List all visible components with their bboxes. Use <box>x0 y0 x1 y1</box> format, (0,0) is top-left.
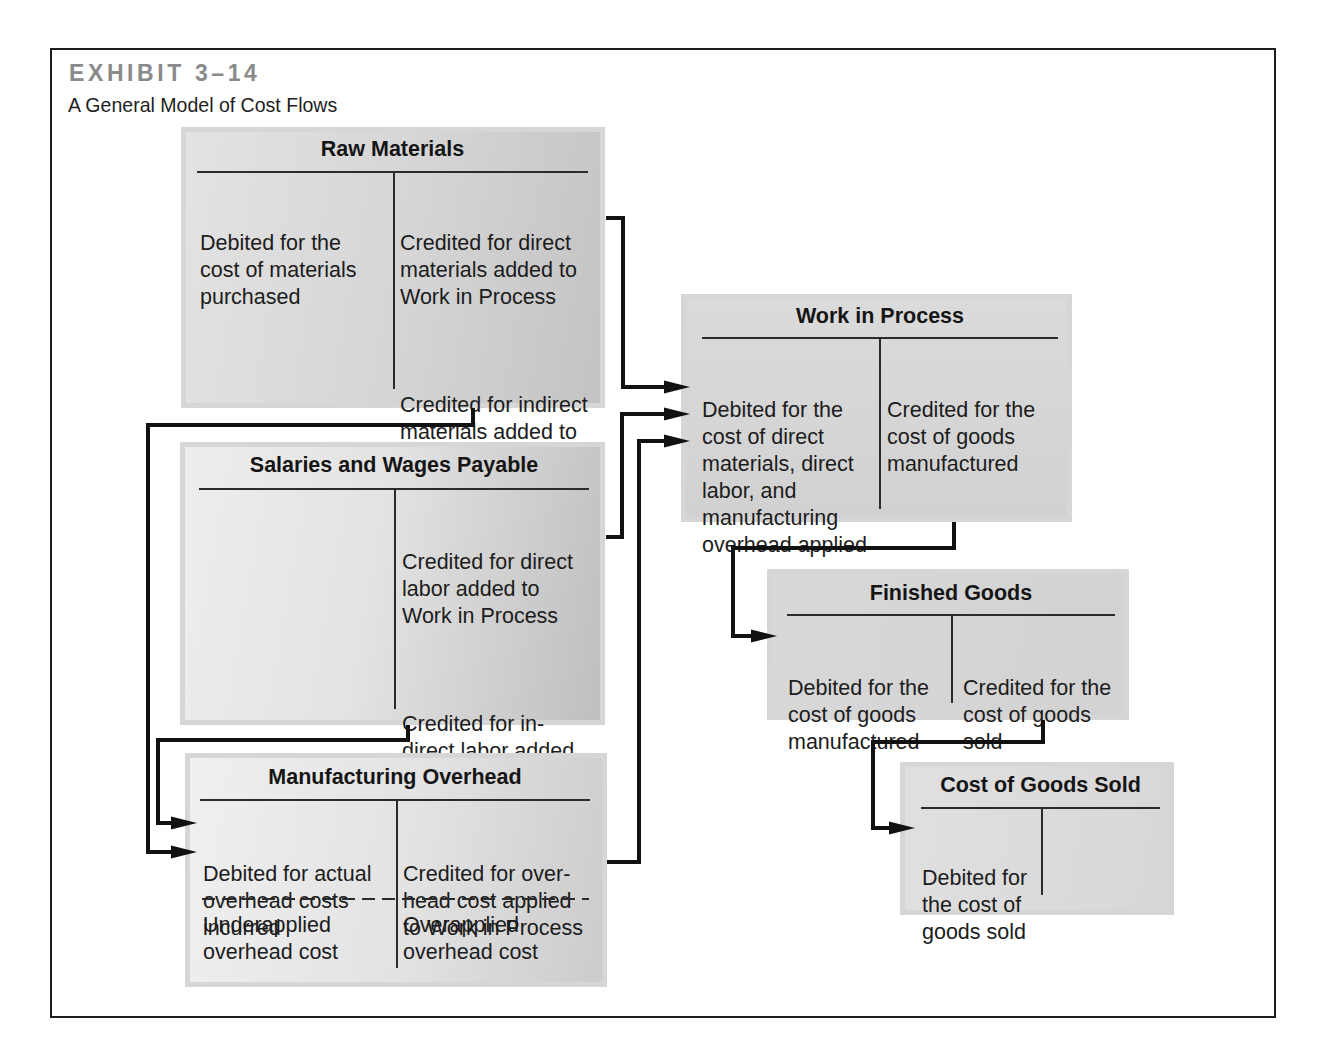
credit-entry: Credited for direct labor added to Work … <box>402 549 574 630</box>
credit-entry: Credited for the cost of goods sold <box>963 675 1111 756</box>
t-account-salaries-and-wages-payable: Salaries and Wages Payable Credited for … <box>180 442 605 725</box>
t-account-divider <box>879 337 881 509</box>
account-title: Work in Process <box>702 303 1058 330</box>
exhibit-number: EXHIBIT 3–14 <box>69 62 261 85</box>
credit-entry: Credited for the cost of goods manufactu… <box>887 397 1035 478</box>
t-account-divider <box>394 488 396 709</box>
debit-entry: Debited for the cost of goods sold <box>922 865 1027 946</box>
account-title: Finished Goods <box>787 580 1115 607</box>
account-title: Raw Materials <box>197 136 588 163</box>
exhibit-title: A General Model of Cost Flows <box>68 94 337 115</box>
debit-entry: Debited for the cost of direct materials… <box>702 397 867 559</box>
credit-entry: Credited for direct materials added to W… <box>400 230 588 311</box>
debit-side: Debited for actual overhead costs incurr… <box>203 807 372 996</box>
underapplied-balance: Underapplied overhead cost <box>203 912 338 966</box>
credit-side: Credited for over- head cost applied to … <box>403 807 583 996</box>
account-title: Salaries and Wages Payable <box>199 452 589 479</box>
debit-side: Debited for the cost of materials purcha… <box>200 176 357 365</box>
t-account-work-in-process: Work in Process Debited for the cost of … <box>681 294 1072 522</box>
t-account-finished-goods: Finished Goods Debited for the cost of g… <box>767 569 1129 720</box>
debit-side: Debited for the cost of goods sold <box>922 811 1027 1000</box>
overapplied-balance: Overapplied overhead cost <box>403 912 538 966</box>
t-account-raw-materials: Raw Materials Debited for the cost of ma… <box>181 127 605 408</box>
balance-dashed-rule <box>202 898 589 900</box>
t-account-top-rule <box>200 799 590 801</box>
credit-side: Credited for the cost of goods manufactu… <box>887 343 1035 532</box>
debit-entry: Debited for the cost of goods manufactur… <box>788 675 929 756</box>
t-account-divider <box>1041 807 1043 895</box>
t-account-divider <box>396 799 398 968</box>
t-account-divider <box>393 171 395 389</box>
debit-entry: Debited for the cost of materials purcha… <box>200 230 357 311</box>
t-account-manufacturing-overhead: Manufacturing Overhead Debited for actua… <box>185 753 607 987</box>
account-title: Manufacturing Overhead <box>200 764 590 791</box>
account-title: Cost of Goods Sold <box>921 772 1160 799</box>
t-account-divider <box>951 614 953 703</box>
t-account-cost-of-goods-sold: Cost of Goods Sold Debited for the cost … <box>900 762 1174 915</box>
